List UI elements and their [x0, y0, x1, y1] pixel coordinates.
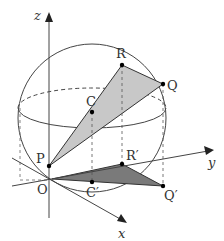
triangle-pqr	[49, 65, 163, 166]
z-axis-arrow-icon	[45, 12, 53, 22]
x-label: x	[118, 226, 126, 241]
label-q: Q	[167, 78, 178, 93]
left-projection-dashed	[20, 108, 50, 180]
y-label: y	[207, 155, 216, 170]
y-axis-arrow-icon	[204, 146, 214, 155]
origin-label: O	[37, 182, 48, 197]
point-q	[161, 82, 165, 86]
label-r: R	[116, 46, 127, 61]
point-c	[90, 110, 94, 114]
label-c: C	[86, 94, 96, 109]
point-r-prime	[120, 162, 124, 166]
point-c-prime	[90, 180, 94, 184]
triangle-oq-r	[52, 164, 163, 186]
label-q-prime: Q′	[164, 188, 178, 203]
x-axis-arrow-icon	[117, 214, 127, 223]
point-p	[47, 164, 51, 168]
point-r	[120, 63, 124, 67]
label-r-prime: R′	[126, 148, 139, 163]
label-p: P	[36, 151, 45, 166]
sphere-diagram: z y x O P R Q C R′ Q′ C′	[0, 0, 224, 241]
z-label: z	[33, 8, 41, 23]
label-c-prime: C′	[86, 185, 99, 200]
